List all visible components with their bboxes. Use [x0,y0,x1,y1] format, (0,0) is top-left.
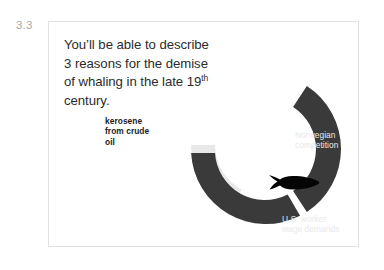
slice-label-us-worker: U.S. worker wage demands [282,214,366,235]
slide-number: 3.3 [16,20,33,32]
slide-canvas: 3.3 You’ll be able to describe 3 reasons… [0,0,384,270]
slice-label-norwegian: Norwegian competition [295,130,365,151]
donut-center-hole [244,127,288,171]
whale-silhouette-icon [268,172,320,194]
slide-card: You’ll be able to describe 3 reasons for… [48,21,359,247]
objective-text-suffix: century. [64,93,110,108]
whale-silhouette-svg [268,172,320,194]
slice-label-kerosene: kerosene from crude oil [105,116,167,147]
